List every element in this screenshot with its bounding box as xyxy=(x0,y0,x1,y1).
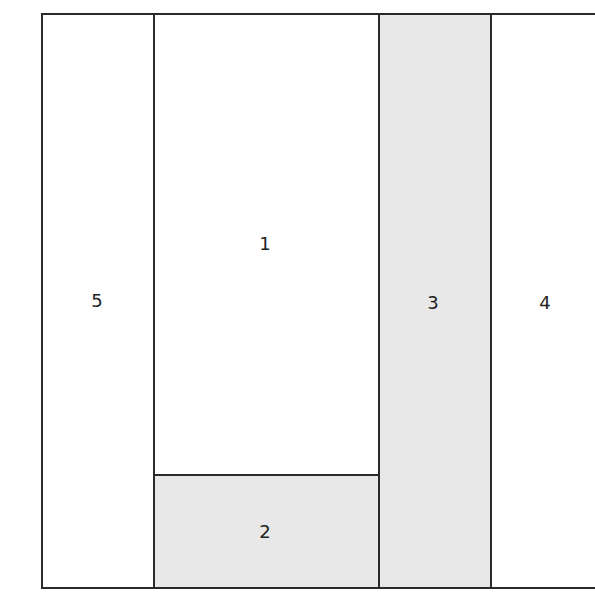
region-2-label: 2 xyxy=(259,523,270,541)
divider-1-2 xyxy=(153,474,379,476)
region-1-label: 1 xyxy=(259,235,270,253)
region-3-label: 3 xyxy=(427,294,438,312)
divider-5-1 xyxy=(153,13,155,589)
divider-1-3 xyxy=(378,13,380,589)
divider-3-4 xyxy=(490,13,492,589)
top-border-line xyxy=(42,13,595,15)
region-4-label: 4 xyxy=(539,294,550,312)
partition-diagram: 1 2 3 4 5 xyxy=(0,0,595,609)
region-5-label: 5 xyxy=(91,292,102,310)
left-border-line xyxy=(41,13,43,589)
bottom-border-line xyxy=(41,587,595,589)
